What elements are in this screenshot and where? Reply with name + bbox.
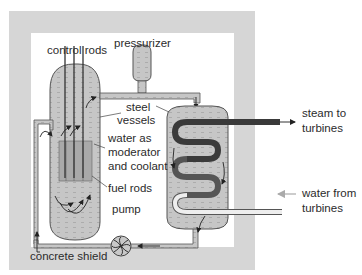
water-from-turbines-label-1: water from — [302, 186, 356, 200]
fuel-rods — [59, 141, 92, 181]
steel-vessels-label-2: vessels — [117, 113, 155, 127]
steam-to-turbines-label-1: steam to — [302, 106, 346, 120]
water-from-turbines-label-2: turbines — [302, 201, 343, 215]
water-moderator-label-2: moderator — [108, 145, 160, 159]
pressurizer — [133, 45, 151, 93]
pressurizer-label: pressurizer — [114, 36, 171, 50]
water-moderator-label-1: water as — [108, 131, 151, 145]
fuel-rods-label: fuel rods — [108, 181, 152, 195]
concrete-shield-label: concrete shield — [30, 249, 107, 263]
steel-vessels-label-1: steel — [126, 100, 150, 114]
pump-icon — [111, 236, 131, 256]
control-rods-label: control rods — [47, 43, 107, 57]
reactor-vessel — [50, 46, 100, 240]
water-moderator-label-3: and coolant — [108, 159, 167, 173]
pump-label: pump — [112, 202, 141, 216]
reactor-diagram — [0, 0, 362, 275]
steam-to-turbines-label-2: turbines — [302, 121, 343, 135]
